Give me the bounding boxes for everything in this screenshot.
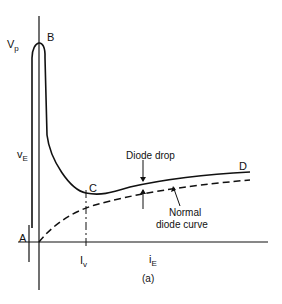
- label-diode-curve: diode curve: [156, 219, 208, 230]
- emitter-characteristic-curve: [32, 43, 250, 228]
- label-d: D: [239, 160, 247, 172]
- label-ie: iE: [149, 253, 157, 268]
- label-ve: vE: [17, 148, 28, 163]
- label-a: A: [19, 232, 27, 244]
- arrowhead-up: [140, 189, 146, 194]
- label-vp: Vp: [7, 38, 19, 53]
- label-normal: Normal: [169, 207, 201, 218]
- label-c: C: [89, 182, 97, 194]
- label-diode-drop: Diode drop: [126, 150, 175, 161]
- label-iv: Iv: [80, 254, 87, 269]
- label-b: B: [47, 31, 54, 43]
- ujt-characteristic-diagram: Vp B vE A C D Diode drop Normal diode cu…: [0, 0, 282, 304]
- arrowhead-down: [140, 177, 146, 182]
- normal-curve-pointer: [174, 189, 180, 206]
- figure-caption: (a): [142, 273, 154, 284]
- normal-diode-curve: [39, 180, 250, 242]
